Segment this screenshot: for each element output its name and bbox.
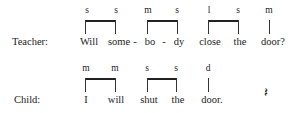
teacher-hyphen-1: - <box>133 36 137 47</box>
child-speaker-label: Child: <box>14 94 40 105</box>
quarter-rest-icon: 𝄽 <box>264 85 268 101</box>
child-label-3: s <box>145 63 149 73</box>
teacher-word-close: close <box>199 36 221 47</box>
teacher-hyphen-2: - <box>162 36 166 47</box>
child-word-shut: shut <box>140 94 158 105</box>
teacher-label-7: m <box>265 5 272 15</box>
teacher-bracket-3 <box>208 20 239 22</box>
teacher-bracket-2-left <box>147 20 148 34</box>
child-label-5: d <box>206 63 211 73</box>
child-bracket-1-left <box>85 78 86 92</box>
teacher-bracket-3-left <box>208 20 209 34</box>
teacher-word-bo: bo <box>145 36 156 47</box>
teacher-word-will: Will <box>80 36 98 47</box>
teacher-word-door: door? <box>261 36 285 47</box>
teacher-word-some: some <box>108 36 130 47</box>
child-bracket-2 <box>147 78 177 80</box>
teacher-bracket-2 <box>147 20 178 22</box>
teacher-stem-door <box>269 20 270 34</box>
child-bracket-1-right <box>115 78 116 92</box>
teacher-label-3: m <box>144 5 151 15</box>
child-word-door: door. <box>201 94 222 105</box>
child-bracket-1 <box>85 78 116 80</box>
child-word-the: the <box>172 94 185 105</box>
teacher-label-1: s <box>85 5 89 15</box>
teacher-bracket-1 <box>85 20 116 22</box>
teacher-word-the: the <box>234 36 247 47</box>
child-word-will: will <box>108 94 124 105</box>
teacher-bracket-2-right <box>177 20 178 34</box>
child-stem-door <box>208 78 209 92</box>
child-bracket-2-right <box>176 78 177 92</box>
teacher-label-5: l <box>208 5 211 15</box>
teacher-label-2: s <box>114 5 118 15</box>
child-label-2: m <box>111 63 118 73</box>
child-label-1: m <box>82 63 89 73</box>
teacher-bracket-1-right <box>115 20 116 34</box>
teacher-speaker-label: Teacher: <box>12 36 48 47</box>
teacher-word-dy: dy <box>174 36 185 47</box>
child-word-i: I <box>84 94 88 105</box>
child-label-4: s <box>174 63 178 73</box>
teacher-bracket-1-left <box>85 20 86 34</box>
teacher-bracket-3-right <box>238 20 239 34</box>
teacher-label-4: s <box>175 5 179 15</box>
teacher-label-6: s <box>236 5 240 15</box>
child-bracket-2-left <box>147 78 148 92</box>
